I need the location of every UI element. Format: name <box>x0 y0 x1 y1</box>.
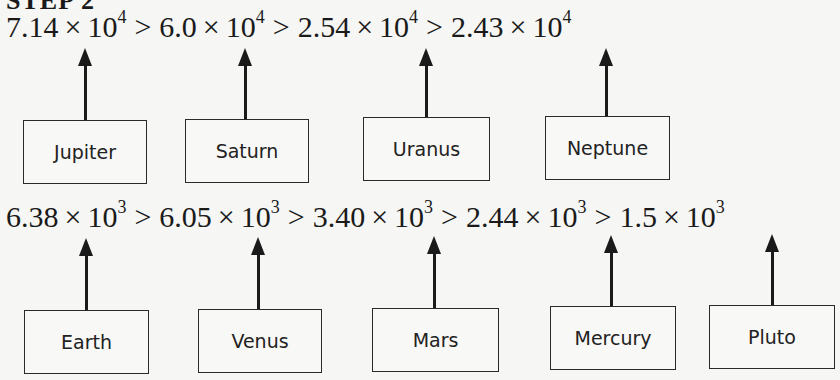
arrow-up-icon <box>771 248 774 305</box>
gas-giants-inequality: 7.14×104>6.0×104>2.54×104>2.43×104 <box>6 10 571 44</box>
greater-than-symbol: > <box>288 200 305 233</box>
arrow-up-icon <box>244 62 247 120</box>
greater-than-symbol: > <box>134 200 151 233</box>
planet-box-saturn: Saturn <box>185 119 309 183</box>
planet-box-neptune: Neptune <box>545 116 670 180</box>
greater-than-symbol: > <box>441 200 458 233</box>
planet-box-uranus: Uranus <box>363 117 490 181</box>
term-pluto: 1.5×103 <box>619 200 724 233</box>
term-venus: 6.05×103 <box>159 200 279 233</box>
greater-than-symbol: > <box>273 10 290 43</box>
term-neptune: 2.43×104 <box>451 10 571 43</box>
arrow-up-icon <box>433 250 436 308</box>
arrow-up-icon <box>84 62 87 120</box>
greater-than-symbol: > <box>426 10 443 43</box>
arrow-up-icon <box>85 252 88 310</box>
term-mercury: 2.44×103 <box>466 200 586 233</box>
term-uranus: 2.54×104 <box>298 10 418 43</box>
planet-box-mercury: Mercury <box>550 306 676 370</box>
arrow-up-icon <box>257 251 260 309</box>
greater-than-symbol: > <box>594 200 611 233</box>
greater-than-symbol: > <box>134 10 151 43</box>
arrow-up-icon <box>605 62 608 120</box>
term-mars: 3.40×103 <box>313 200 433 233</box>
arrow-up-icon <box>425 62 428 120</box>
terrestrial-planets-inequality: 6.38×103>6.05×103>3.40×103>2.44×103>1.5×… <box>6 200 725 234</box>
planet-box-mars: Mars <box>372 308 499 372</box>
planet-box-pluto: Pluto <box>709 305 835 369</box>
planet-box-earth: Earth <box>24 310 149 374</box>
term-jupiter: 7.14×104 <box>6 10 126 43</box>
planet-box-jupiter: Jupiter <box>23 120 147 184</box>
term-saturn: 6.0×104 <box>159 10 264 43</box>
term-earth: 6.38×103 <box>6 200 126 233</box>
planet-box-venus: Venus <box>198 309 322 373</box>
arrow-up-icon <box>610 249 613 307</box>
